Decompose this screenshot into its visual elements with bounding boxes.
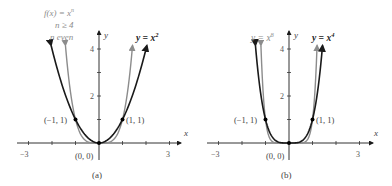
legend-x-squared: y = x2 <box>135 31 159 43</box>
point-label-1-1: (1, 1) <box>126 115 145 125</box>
y-tick-label-4: 4 <box>280 45 284 54</box>
figure: x −3 3 y 4 2 (−1, 1) (0, 0) (1, 1) <box>0 0 392 186</box>
x-tick-label-3: 3 <box>166 150 170 159</box>
point-neg1-1 <box>74 118 78 122</box>
point-origin <box>287 141 291 145</box>
y-axis-label: y <box>293 30 298 40</box>
y-tick-label-4: 4 <box>90 45 94 54</box>
y-axis: y 4 2 <box>280 30 298 160</box>
caption-a: (a) <box>92 170 102 180</box>
point-origin <box>97 141 101 145</box>
panel-b: x −3 3 y 4 2 (−1, 1) (0, 0) (1, 1) y = <box>207 30 378 180</box>
x-tick-label-neg3: −3 <box>20 150 29 159</box>
point-1-1 <box>311 118 315 122</box>
point-label-origin: (0, 0) <box>266 151 285 161</box>
legend-x-n: f(x) = xn n ≥ 4 n even <box>44 7 74 42</box>
panel-a: x −3 3 y 4 2 (−1, 1) (0, 0) (1, 1) <box>17 7 188 180</box>
x-tick-label-3: 3 <box>356 150 360 159</box>
y-tick-label-2: 2 <box>280 92 284 101</box>
caption-b: (b) <box>281 170 292 180</box>
svg-text:f(x) = xn: f(x) = xn <box>44 7 74 18</box>
point-label-1-1: (1, 1) <box>316 115 335 125</box>
x-axis-label: x <box>183 128 188 138</box>
legend-x-8: y = x8 <box>250 31 275 43</box>
point-label-neg1-1: (−1, 1) <box>44 115 67 125</box>
point-label-neg1-1: (−1, 1) <box>234 115 257 125</box>
svg-text:n even: n even <box>50 32 74 42</box>
point-neg1-1 <box>264 118 268 122</box>
x-axis-label: x <box>373 128 378 138</box>
x-tick-label-neg3: −3 <box>211 150 220 159</box>
svg-text:n ≥ 4: n ≥ 4 <box>55 20 74 30</box>
y-tick-label-2: 2 <box>90 92 94 101</box>
legend-x-4: y = x4 <box>311 31 335 43</box>
point-label-origin: (0, 0) <box>75 151 94 161</box>
point-1-1 <box>121 118 125 122</box>
y-axis-label: y <box>103 30 108 40</box>
